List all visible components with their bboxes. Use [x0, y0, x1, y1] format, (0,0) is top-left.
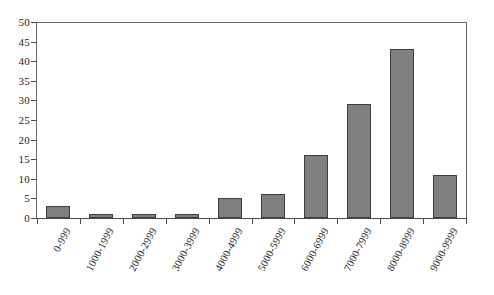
x-axis-tick-mark: [80, 219, 81, 224]
y-axis-tick-label: 35: [19, 75, 30, 87]
x-axis-ticks: [37, 219, 466, 225]
x-axis-tick-mark: [166, 219, 167, 224]
x-axis-tick-label-text: 1000-1999: [84, 226, 116, 273]
y-axis-tick-label: 0: [24, 212, 30, 224]
x-axis-tick-label-text: 2000-2999: [127, 226, 159, 273]
x-axis-tick-mark: [380, 219, 381, 224]
y-axis-tick-label: 45: [19, 36, 30, 48]
bar: [347, 104, 371, 218]
x-axis-tick-mark: [123, 219, 124, 224]
y-axis-tick-label: 25: [19, 114, 30, 126]
x-axis-tick-mark: [423, 219, 424, 224]
x-axis-labels: 0-9991000-19992000-29993000-39994000-499…: [37, 226, 466, 295]
x-axis-tick-mark: [209, 219, 210, 224]
x-axis-tick-label-text: 8000-8999: [384, 226, 416, 273]
y-axis-tick-label: 50: [19, 16, 30, 28]
y-axis-tick-label: 10: [19, 173, 30, 185]
bar-slot: [80, 22, 123, 218]
bar: [433, 175, 457, 218]
x-axis-tick-mark: [252, 219, 253, 224]
x-axis-tick-label-text: 3000-3999: [170, 226, 202, 273]
bars-container: [37, 22, 466, 218]
y-axis-tick-label: 20: [19, 134, 30, 146]
y-axis-tick-label: 5: [24, 192, 30, 204]
x-axis-tick-label-text: 7000-7999: [342, 226, 374, 273]
x-axis-tick-label-text: 6000-6999: [299, 226, 331, 273]
x-axis-tick-mark: [294, 219, 295, 224]
bar: [218, 198, 242, 218]
bar-slot: [37, 22, 80, 218]
x-axis-tick-mark: [466, 219, 467, 224]
x-axis-tick-mark: [337, 219, 338, 224]
bar: [261, 194, 285, 218]
bar: [304, 155, 328, 218]
x-axis-tick-label-text: 0-999: [51, 226, 73, 254]
x-axis-tick-label-text: 5000-5999: [256, 226, 288, 273]
y-axis: 05101520253035404550: [0, 0, 36, 295]
y-axis-tick-label: 30: [19, 94, 30, 106]
y-axis-tick-label: 40: [19, 55, 30, 67]
bar-chart: 05101520253035404550 0-9991000-19992000-…: [0, 0, 494, 295]
x-axis-tick-label-text: 9000-9999: [427, 226, 459, 273]
y-axis-tick-label: 15: [19, 153, 30, 165]
x-axis-tick-label-text: 4000-4999: [213, 226, 245, 273]
x-axis-tick-mark: [37, 219, 38, 224]
